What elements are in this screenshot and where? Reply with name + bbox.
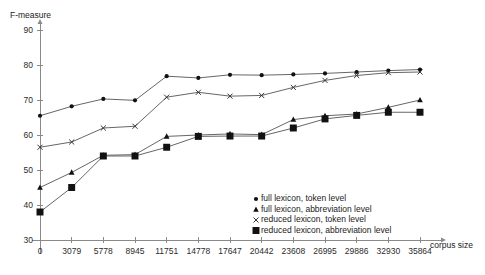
series-line-path [40, 112, 420, 212]
y-tick-label: 80 [24, 60, 34, 70]
legend-label: full lexicon, abbreviation level [261, 204, 372, 214]
data-point-square-marker [195, 133, 202, 140]
legend-item: reduced lexicon, abbreviation level [253, 225, 392, 235]
data-point-square-marker [227, 133, 234, 140]
data-point-circle-marker [323, 71, 327, 75]
x-tick-label: 17647 [218, 246, 242, 256]
data-point-circle-marker [165, 74, 169, 78]
y-tick-label: 70 [24, 95, 34, 105]
data-point-square-marker [253, 227, 260, 234]
x-tick-label: 14778 [187, 246, 211, 256]
data-point-circle-marker [196, 76, 200, 80]
data-point-square-marker [290, 125, 297, 132]
data-point-triangle-marker [253, 207, 258, 212]
data-point-square-marker [353, 112, 360, 119]
data-point-square-marker [417, 109, 424, 116]
x-tick-label: 20442 [250, 246, 274, 256]
legend-item: reduced lexicon, token level [253, 214, 366, 224]
x-tick-label: 32930 [377, 246, 401, 256]
data-point-circle-marker [133, 98, 137, 102]
data-point-circle-marker [101, 97, 105, 101]
data-point-circle-marker [254, 197, 258, 201]
x-tick-label: 29886 [345, 246, 369, 256]
chart-container: F-measure corpus size 30405060708090 030… [0, 0, 485, 275]
data-point-square-marker [100, 153, 107, 160]
x-tick-label: 23608 [282, 246, 306, 256]
series-line-path [40, 100, 420, 188]
x-axis-title: corpus size [430, 240, 473, 250]
x-tick-label: 0 [38, 246, 43, 256]
data-point-circle-marker [291, 72, 295, 76]
chart-legend: full lexicon, token levelfull lexicon, a… [253, 193, 392, 235]
data-point-circle-marker [228, 73, 232, 77]
y-tick-label: 30 [24, 235, 34, 245]
data-point-square-marker [163, 144, 170, 151]
y-tick-label: 50 [24, 165, 34, 175]
legend-item: full lexicon, abbreviation level [253, 204, 371, 214]
data-point-square-marker [322, 115, 329, 122]
x-tick-label: 8945 [126, 246, 145, 256]
x-tick-label: 35864 [408, 246, 432, 256]
data-point-circle-marker [260, 73, 264, 77]
data-point-triangle-marker [37, 184, 43, 189]
f-measure-line-chart: F-measure corpus size 30405060708090 030… [0, 0, 485, 275]
data-point-triangle-marker [69, 169, 75, 174]
data-point-square-marker [385, 109, 392, 116]
series-group [37, 67, 424, 215]
legend-item: full lexicon, token level [254, 193, 346, 203]
data-point-square-marker [132, 153, 139, 160]
legend-label: full lexicon, token level [261, 193, 346, 203]
y-tick-label: 90 [24, 25, 34, 35]
legend-label: reduced lexicon, token level [261, 214, 366, 224]
legend-label: reduced lexicon, abbreviation level [261, 225, 392, 235]
data-point-square-marker [68, 184, 75, 191]
data-point-cross-marker [253, 217, 258, 222]
axes-group [32, 19, 446, 254]
series-triangle [37, 97, 423, 190]
data-point-circle-marker [38, 114, 42, 118]
x-tick-label: 3079 [62, 246, 81, 256]
data-point-square-marker [258, 133, 265, 140]
data-point-triangle-marker [417, 97, 423, 102]
series-square [37, 109, 424, 216]
data-point-circle-marker [70, 104, 74, 108]
y-axis-title: F-measure [10, 10, 51, 20]
x-tick-label: 26995 [313, 246, 337, 256]
x-tick-label: 5778 [94, 246, 113, 256]
x-tick-label: 11751 [155, 246, 178, 256]
data-point-square-marker [37, 209, 44, 216]
y-tick-label: 40 [24, 200, 34, 210]
y-tick-label: 60 [24, 130, 34, 140]
